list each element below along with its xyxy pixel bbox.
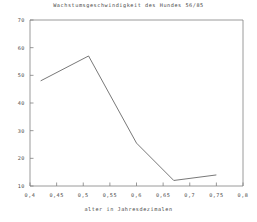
data-series-group bbox=[41, 56, 217, 181]
y-tick-label: 20 bbox=[6, 155, 25, 161]
chart-container: Wachstumsgeschwindigkeit des Hundes 56/8… bbox=[0, 0, 257, 222]
y-axis-ticks bbox=[30, 20, 34, 186]
x-tick-label: 0,8 bbox=[238, 192, 249, 198]
x-tick-label: 0,4 bbox=[25, 192, 36, 198]
plot-area bbox=[0, 0, 257, 222]
y-tick-label: 50 bbox=[6, 72, 25, 78]
x-tick-label: 0,7 bbox=[184, 192, 195, 198]
y-tick-label: 10 bbox=[6, 183, 25, 189]
x-tick-label: 0,55 bbox=[103, 192, 118, 198]
x-tick-label: 0,65 bbox=[156, 192, 171, 198]
axis-frame bbox=[30, 20, 243, 186]
y-tick-label: 40 bbox=[6, 100, 25, 106]
x-tick-label: 0,45 bbox=[49, 192, 64, 198]
x-axis-title: alter in Jahresdezimalen bbox=[0, 206, 257, 212]
y-tick-label: 30 bbox=[6, 128, 25, 134]
y-tick-label: 60 bbox=[6, 45, 25, 51]
x-axis-ticks bbox=[30, 183, 243, 187]
x-tick-label: 0,6 bbox=[131, 192, 142, 198]
x-tick-label: 0,75 bbox=[209, 192, 224, 198]
x-tick-label: 0,5 bbox=[78, 192, 89, 198]
y-tick-label: 70 bbox=[6, 17, 25, 23]
data-line-0 bbox=[41, 56, 217, 181]
